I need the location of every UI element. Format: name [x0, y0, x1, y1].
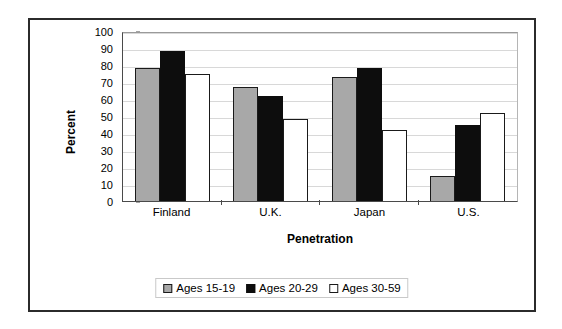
y-axis-tick-label: 20 — [101, 162, 113, 174]
bar — [455, 125, 480, 202]
legend-item[interactable]: Ages 15-19 — [163, 282, 235, 294]
y-axis-tick-label: 10 — [101, 179, 113, 191]
x-axis-tick-labels: FinlandU.K.JapanU.S. — [122, 206, 518, 218]
y-axis-title: Percent — [62, 82, 80, 182]
legend-label: Ages 20-29 — [259, 282, 318, 294]
y-axis-tick-label: 70 — [101, 77, 113, 89]
legend-swatch-icon — [246, 284, 255, 293]
bar — [233, 87, 258, 201]
legend-swatch-icon — [329, 284, 338, 293]
x-axis-title: Penetration — [122, 232, 518, 246]
bar — [332, 77, 357, 201]
bar — [258, 96, 283, 201]
y-axis-tick-label: 100 — [95, 26, 113, 38]
bar — [430, 176, 455, 202]
y-axis-tick-label: 0 — [107, 196, 113, 208]
bar — [283, 119, 308, 201]
x-axis-tick-label: Finland — [122, 206, 221, 218]
x-axis-tick-label: U.K. — [221, 206, 320, 218]
chart-legend: Ages 15-19Ages 20-29Ages 30-59 — [155, 278, 408, 298]
plot-axes-box — [122, 32, 518, 202]
bar — [357, 68, 382, 201]
y-axis-tick-label: 80 — [101, 60, 113, 72]
y-axis-tick-label: 30 — [101, 145, 113, 157]
legend-swatch-icon — [163, 284, 172, 293]
bar — [382, 130, 407, 201]
bar-groups — [123, 33, 517, 201]
x-axis-tick-label: Japan — [320, 206, 419, 218]
plot-region: Percent 1009080706050403020100 FinlandU.… — [66, 32, 526, 232]
bar-group — [123, 33, 222, 201]
y-axis-tick-label: 60 — [101, 94, 113, 106]
bar-group — [320, 33, 419, 201]
bar — [160, 51, 185, 201]
bar-group — [222, 33, 321, 201]
legend-label: Ages 15-19 — [176, 282, 235, 294]
legend-label: Ages 30-59 — [342, 282, 401, 294]
legend-item[interactable]: Ages 20-29 — [246, 282, 318, 294]
y-axis-tick-label: 90 — [101, 43, 113, 55]
y-axis-tick-labels: 1009080706050403020100 — [84, 32, 118, 202]
y-axis-tick-label: 50 — [101, 111, 113, 123]
legend-item[interactable]: Ages 30-59 — [329, 282, 401, 294]
bar — [185, 74, 210, 202]
chart-frame: Percent 1009080706050403020100 FinlandU.… — [28, 18, 536, 312]
y-axis-tick-label: 40 — [101, 128, 113, 140]
bar — [480, 113, 505, 201]
bar — [135, 68, 160, 201]
bar-group — [419, 33, 518, 201]
x-axis-tick-label: U.S. — [419, 206, 518, 218]
